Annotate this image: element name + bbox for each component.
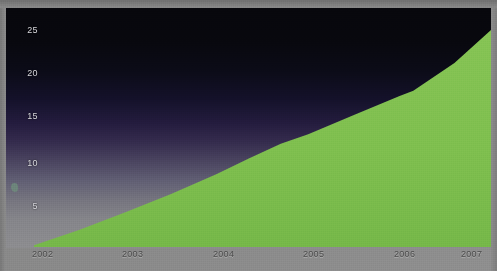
x-tick-label-2006: 2006 bbox=[394, 250, 415, 259]
x-tick-label-2005: 2005 bbox=[303, 250, 324, 259]
x-tick-label-2004: 2004 bbox=[213, 250, 234, 259]
scan-artifact-speck bbox=[11, 183, 18, 192]
plot-svg bbox=[6, 8, 491, 248]
area-series-fill bbox=[34, 30, 491, 247]
x-axis: 2002 2003 2004 2005 2006 2007 bbox=[6, 250, 491, 268]
plot-panel bbox=[6, 8, 491, 248]
area-chart-card: 25 20 15 10 5 2002 2003 2004 2005 2006 2… bbox=[0, 0, 497, 271]
x-tick-label-2007: 2007 bbox=[461, 250, 482, 259]
card-right-edge bbox=[491, 0, 497, 271]
x-tick-label-2003: 2003 bbox=[122, 250, 143, 259]
card-top-edge bbox=[0, 0, 497, 8]
x-tick-label-2002: 2002 bbox=[32, 250, 53, 259]
